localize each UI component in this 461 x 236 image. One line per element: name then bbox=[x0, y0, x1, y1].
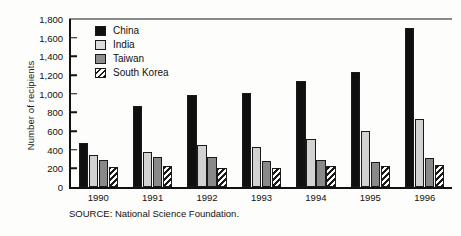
bar-taiwan-1990 bbox=[99, 160, 108, 187]
bar-taiwan-1995 bbox=[371, 162, 380, 187]
bar-taiwan-1991 bbox=[153, 157, 162, 187]
bar-india-1994 bbox=[306, 139, 315, 187]
legend-label: South Korea bbox=[113, 67, 169, 78]
bar-taiwan-1993 bbox=[262, 161, 271, 187]
legend-item-korea: South Korea bbox=[95, 66, 169, 79]
legend-item-india: India bbox=[95, 38, 169, 51]
bar-china-1996 bbox=[405, 28, 414, 187]
bar-korea-1993 bbox=[272, 168, 281, 187]
bar-india-1995 bbox=[361, 131, 370, 187]
y-axis-tick-label: 1,400 bbox=[19, 51, 71, 62]
legend-label: China bbox=[113, 25, 139, 36]
legend-swatch-india-icon bbox=[95, 40, 106, 50]
bar-china-1993 bbox=[242, 93, 251, 187]
legend-label: Taiwan bbox=[113, 53, 144, 64]
legend-item-china: China bbox=[95, 24, 169, 37]
bar-korea-1996 bbox=[435, 165, 444, 187]
x-axis-tick-label: 1991 bbox=[142, 192, 163, 203]
bar-china-1990 bbox=[79, 143, 88, 187]
bar-china-1991 bbox=[133, 106, 142, 187]
legend-swatch-taiwan-icon bbox=[95, 54, 106, 64]
chart-figure: Number of recipients 02004006008001,0001… bbox=[0, 0, 461, 236]
bar-taiwan-1996 bbox=[425, 158, 434, 187]
bar-korea-1994 bbox=[326, 166, 335, 187]
bar-korea-1995 bbox=[381, 166, 390, 187]
y-axis-tick-label: 600 bbox=[19, 126, 71, 137]
y-axis-tick-label: 1,800 bbox=[19, 14, 71, 25]
x-axis-tick-label: 1994 bbox=[305, 192, 326, 203]
y-axis-title: Number of recipients bbox=[25, 26, 36, 186]
y-axis-tick-label: 800 bbox=[19, 107, 71, 118]
x-axis-tick-label: 1990 bbox=[88, 192, 109, 203]
bar-taiwan-1994 bbox=[316, 160, 325, 187]
bar-china-1992 bbox=[187, 95, 196, 187]
source-note: SOURCE: National Science Foundation. bbox=[69, 208, 239, 219]
bar-group: 1995 bbox=[343, 19, 397, 187]
bar-group: 1994 bbox=[289, 19, 343, 187]
x-axis-tick-label: 1993 bbox=[251, 192, 272, 203]
legend-label: India bbox=[113, 39, 135, 50]
y-axis-tick-label: 0 bbox=[19, 182, 71, 193]
y-axis-tick-label: 1,600 bbox=[19, 32, 71, 43]
bar-taiwan-1992 bbox=[207, 157, 216, 187]
bar-china-1995 bbox=[351, 72, 360, 187]
legend-item-taiwan: Taiwan bbox=[95, 52, 169, 65]
bar-india-1990 bbox=[89, 155, 98, 187]
bar-group: 1993 bbox=[234, 19, 288, 187]
bar-group: 1992 bbox=[180, 19, 234, 187]
y-axis-tick-label: 400 bbox=[19, 144, 71, 155]
bar-group: 1996 bbox=[398, 19, 452, 187]
legend-swatch-china-icon bbox=[95, 26, 106, 36]
y-axis-tick-label: 1,000 bbox=[19, 88, 71, 99]
x-axis-tick-label: 1996 bbox=[414, 192, 435, 203]
bar-korea-1992 bbox=[217, 168, 226, 187]
bar-india-1992 bbox=[197, 145, 206, 187]
bar-india-1993 bbox=[252, 147, 261, 187]
chart-legend: ChinaIndiaTaiwanSouth Korea bbox=[95, 24, 169, 79]
bar-korea-1990 bbox=[109, 167, 118, 187]
bar-korea-1991 bbox=[163, 166, 172, 187]
bar-india-1996 bbox=[415, 119, 424, 187]
x-axis-tick-label: 1995 bbox=[360, 192, 381, 203]
y-axis-tick-label: 200 bbox=[19, 163, 71, 174]
y-axis-tick-label: 1,200 bbox=[19, 70, 71, 81]
legend-swatch-korea-icon bbox=[95, 68, 106, 78]
bar-china-1994 bbox=[296, 81, 305, 187]
bar-india-1991 bbox=[143, 152, 152, 187]
x-axis-tick-label: 1992 bbox=[196, 192, 217, 203]
